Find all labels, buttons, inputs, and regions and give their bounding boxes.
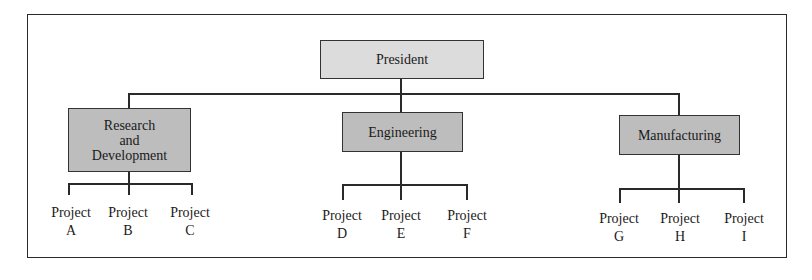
project-letter: A [41, 222, 101, 240]
project-label: Project [98, 204, 158, 222]
department-box-manufacturing: Manufacturing [619, 115, 740, 155]
project-letter: H [650, 228, 710, 246]
project-d: Project D [312, 207, 372, 243]
connector [619, 188, 744, 190]
project-label: Project [371, 207, 431, 225]
project-f: Project F [437, 207, 497, 243]
project-h: Project H [650, 210, 710, 246]
department-box-research-and-development: Research and Development [68, 108, 191, 172]
project-letter: E [371, 225, 431, 243]
project-letter: G [589, 228, 649, 246]
project-label: Project [437, 207, 497, 225]
project-label: Project [160, 204, 220, 222]
project-b: Project B [98, 204, 158, 240]
project-g: Project G [589, 210, 649, 246]
connector [466, 184, 468, 200]
connector [128, 93, 130, 108]
connector [342, 184, 344, 200]
department-label-line: and [119, 133, 139, 148]
project-letter: D [312, 225, 372, 243]
project-a: Project A [41, 204, 101, 240]
department-label-line: Development [92, 148, 167, 163]
connector [400, 79, 402, 112]
department-label: Engineering [368, 125, 436, 140]
connector [678, 155, 680, 203]
connector [342, 184, 467, 186]
president-box: President [320, 40, 484, 79]
department-box-engineering: Engineering [342, 112, 463, 152]
connector [678, 93, 680, 115]
project-label: Project [650, 210, 710, 228]
president-label: President [376, 52, 428, 67]
project-letter: F [437, 225, 497, 243]
project-c: Project C [160, 204, 220, 240]
project-label: Project [41, 204, 101, 222]
connector [743, 188, 745, 203]
connector [191, 183, 193, 195]
project-letter: C [160, 222, 220, 240]
project-letter: B [98, 222, 158, 240]
connector [68, 183, 192, 185]
project-letter: I [714, 228, 774, 246]
project-label: Project [589, 210, 649, 228]
connector [400, 152, 402, 200]
department-label: Manufacturing [638, 128, 721, 143]
project-label: Project [312, 207, 372, 225]
project-e: Project E [371, 207, 431, 243]
department-label-line: Research [104, 118, 155, 133]
connector [68, 183, 70, 195]
project-i: Project I [714, 210, 774, 246]
connector [128, 93, 679, 95]
connector [619, 188, 621, 203]
project-label: Project [714, 210, 774, 228]
